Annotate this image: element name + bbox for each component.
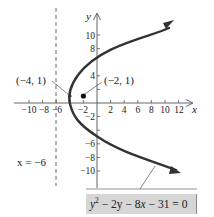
- equation-label: y2 − 2y − 8x − 31 = 0: [90, 196, 187, 210]
- x-tick-label: 4: [122, 105, 127, 115]
- x-axis: −10 −8 −6 −2 2 4 6 8 10 12 x: [14, 100, 197, 116]
- vertex-label: (−4, 1): [16, 74, 46, 87]
- x-tick-label: −8: [39, 105, 49, 115]
- x-tick-label: 6: [135, 105, 140, 115]
- y-tick-label: −10: [80, 166, 95, 176]
- focus-leader-line: [85, 82, 102, 94]
- y-axis-label: y: [85, 10, 91, 22]
- x-axis-label: x: [191, 103, 197, 115]
- y-axis: 10 8 4 −2 −6 −8 −10 y: [80, 10, 100, 188]
- y-tick-label: −6: [85, 139, 95, 149]
- x-tick-label: 2: [108, 105, 113, 115]
- focus-label: (−2, 1): [104, 74, 134, 87]
- y-tick-label: −8: [85, 153, 95, 163]
- x-tick-label: 8: [149, 105, 154, 115]
- x-tick-label: −10: [22, 105, 37, 115]
- y-tick-label: 8: [90, 44, 95, 54]
- x-tick-label: 10: [160, 105, 170, 115]
- equation-box: y2 − 2y − 8x − 31 = 0: [86, 194, 197, 214]
- x-tick-label: 12: [174, 105, 184, 115]
- y-tick-label: −2: [85, 112, 95, 122]
- vertex-leader-line: [52, 81, 69, 95]
- directrix-label: x = −6: [17, 156, 46, 168]
- parabola-graph: −10 −8 −6 −2 2 4 6 8 10 12 x 10 8 4 −2 −…: [0, 0, 214, 217]
- y-tick-label: 4: [90, 71, 95, 81]
- equation-leader-line: [140, 166, 155, 189]
- curve-arrow-lower-icon: [169, 166, 181, 174]
- x-tick-label: −6: [52, 105, 62, 115]
- y-tick-label: 10: [86, 31, 96, 41]
